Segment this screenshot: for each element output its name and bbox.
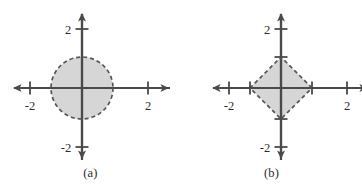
x-tick-negative-two-label: -2 [224, 99, 234, 113]
panel-a-caption: (a) [0, 166, 181, 181]
y-tick-negative-two-label: -2 [260, 141, 270, 155]
x-tick-positive-two-label: 2 [344, 99, 350, 113]
x-tick-positive-two-label: 2 [145, 99, 151, 113]
figure-root: -2 2 2 -2 (a) [0, 0, 362, 192]
panel-a: -2 2 2 -2 (a) [0, 0, 181, 192]
panel-b-caption: (b) [181, 166, 362, 181]
y-tick-positive-two-label: 2 [65, 23, 71, 37]
x-tick-negative-two-label: -2 [25, 99, 35, 113]
panel-a-plot: -2 2 2 -2 [0, 0, 181, 192]
y-tick-positive-two-label: 2 [264, 23, 270, 37]
panel-b-plot: -2 2 2 -2 [181, 0, 362, 192]
panel-b: -2 2 2 -2 (b) [181, 0, 362, 192]
y-tick-negative-two-label: -2 [61, 141, 71, 155]
